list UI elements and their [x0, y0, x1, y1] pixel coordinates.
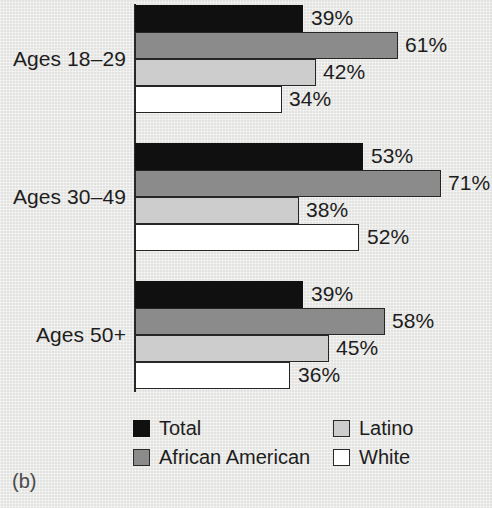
legend-label-total: Total: [159, 417, 201, 440]
bar-total[interactable]: [135, 281, 303, 308]
bar-total[interactable]: [135, 5, 303, 32]
group-label-ages-50-plus: Ages 50+: [0, 323, 126, 347]
legend-label-african-american: African American: [159, 446, 310, 469]
bar-value-african-american: 61%: [405, 33, 447, 57]
bar-white[interactable]: [135, 362, 290, 389]
legend-label-white: White: [359, 446, 410, 469]
bar-value-white: 36%: [298, 363, 340, 387]
legend-label-latino: Latino: [359, 417, 414, 440]
legend-swatch-african-american-icon: [133, 449, 150, 466]
bar-total[interactable]: [135, 143, 363, 170]
bar-value-african-american: 71%: [448, 171, 490, 195]
bar-value-white: 52%: [367, 225, 409, 249]
legend-item-total[interactable]: Total: [133, 414, 310, 443]
bar-latino[interactable]: [135, 335, 329, 362]
bar-white[interactable]: [135, 224, 359, 251]
bar-latino[interactable]: [135, 197, 299, 224]
figure-panel: Ages 18–29 39% 61% 42% 34%: [0, 0, 492, 508]
legend-item-white[interactable]: White: [333, 443, 414, 472]
legend-swatch-latino-icon: [333, 420, 350, 437]
bar-value-african-american: 58%: [392, 309, 434, 333]
legend-item-latino[interactable]: Latino: [333, 414, 414, 443]
bar-value-latino: 45%: [336, 336, 378, 360]
bar-value-total: 39%: [311, 6, 353, 30]
legend-column-right: Latino White: [333, 414, 414, 472]
grouped-bar-chart: Ages 18–29 39% 61% 42% 34%: [0, 0, 492, 400]
figure-caption: (b): [12, 470, 36, 493]
bar-african-american[interactable]: [135, 308, 385, 335]
legend-swatch-white-icon: [333, 449, 350, 466]
legend-item-african-american[interactable]: African American: [133, 443, 310, 472]
legend-swatch-total-icon: [133, 420, 150, 437]
bar-african-american[interactable]: [135, 32, 398, 59]
bar-value-latino: 42%: [323, 60, 365, 84]
legend-column-left: Total African American: [133, 414, 310, 472]
bar-value-total: 39%: [311, 282, 353, 306]
bar-value-total: 53%: [371, 144, 413, 168]
group-label-ages-30-49: Ages 30–49: [0, 185, 126, 209]
group-label-ages-18-29: Ages 18–29: [0, 47, 126, 71]
bar-latino[interactable]: [135, 59, 316, 86]
bar-value-white: 34%: [289, 87, 331, 111]
chart-legend: Total African American Latino White: [133, 414, 483, 472]
bar-african-american[interactable]: [135, 170, 441, 197]
bar-white[interactable]: [135, 86, 282, 113]
bar-value-latino: 38%: [306, 198, 348, 222]
